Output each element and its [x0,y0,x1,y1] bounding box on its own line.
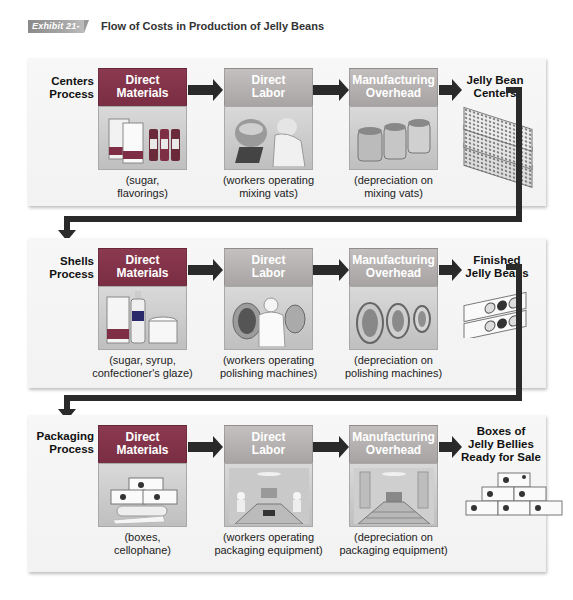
boxes-icon [103,468,183,524]
manufacturing-overhead-box: ManufacturingOverhead (depreciation on p… [349,248,438,380]
manufacturing-overhead-header: ManufacturingOverhead [349,248,438,286]
output-line: Jelly Bean [460,74,530,87]
exhibit-title: Flow of Costs in Production of Jelly Bea… [101,19,324,33]
direct-labor-header: DirectLabor [224,425,313,463]
packaging-process-panel: Packaging Process DirectMaterials (boxes… [28,415,546,572]
direct-labor-header: DirectLabor [224,68,313,106]
connector-line-horizontal [64,395,522,401]
connector-line-horizontal [64,216,522,222]
connector-line-drop [64,395,70,410]
caption-line: mixing vats) [329,187,458,200]
caption-line: mixing vats) [204,187,333,200]
sugar-syrup-glaze-image [98,286,187,350]
cost-caption: (workers operating mixing vats) [204,174,333,200]
output-line: Jelly Beans [460,267,534,280]
manufacturing-overhead-header: ManufacturingOverhead [349,68,438,106]
cost-caption: (workers operating polishing machines) [204,354,333,380]
box-title: Labor [251,87,285,100]
worker-icon [229,111,309,167]
box-title: Overhead [352,87,435,100]
box-title: Materials [116,267,168,280]
polishing-drums-image [349,286,438,350]
flow-arrow [313,442,340,452]
direct-labor-box: DirectLabor (workers operating packaging… [224,425,313,557]
caption-line: packaging equipment) [329,544,458,557]
polishing-worker-icon [229,291,309,347]
box-title: Labor [251,444,285,457]
packaging-workers-icon [229,468,309,524]
caption-line: (workers operating [204,174,333,187]
caption-line: confectioner's glaze) [78,367,207,380]
box-title: Labor [251,267,285,280]
flow-arrow [188,85,214,95]
direct-materials-header: DirectMaterials [98,248,187,286]
shells-process-panel: Shells Process DirectMaterials (sugar, s… [28,238,546,388]
cost-caption: (workers operating packaging equipment) [204,531,333,557]
cost-caption: (boxes, cellophane) [78,531,207,557]
process-label-line: Process [28,443,94,456]
connector-line-top-stub [506,264,522,270]
caption-line: packaging equipment) [204,544,333,557]
flow-arrow [313,265,340,275]
caption-line: (workers operating [204,531,333,544]
workers-packaging-equipment-image [224,463,313,527]
direct-labor-box: DirectLabor (workers operating polishing… [224,248,313,380]
caption-line: (boxes, [78,531,207,544]
connector-line-top-stub [506,87,522,93]
workers-mixing-vats-image [224,106,313,170]
workers-polishing-machines-image [224,286,313,350]
sugar-and-flavorings-image [98,106,187,170]
process-label-line: Shells [28,255,94,268]
caption-line: (depreciation on [329,354,458,367]
direct-materials-box: DirectMaterials (sugar, flavorings) [98,68,187,200]
manufacturing-overhead-box: ManufacturingOverhead (depreciation on p… [349,425,438,557]
process-label: Centers Process [28,75,94,101]
caption-line: cellophane) [78,544,207,557]
direct-labor-box: DirectLabor (workers operating mixing va… [224,68,313,200]
caption-line: flavorings) [78,187,207,200]
cost-caption: (depreciation on polishing machines) [329,354,458,380]
direct-materials-box: DirectMaterials (boxes, cellophane) [98,425,187,557]
process-label: Shells Process [28,255,94,281]
connector-line-drop [64,216,70,231]
direct-materials-header: DirectMaterials [98,68,187,106]
mixing-vats-image [349,106,438,170]
process-label: Packaging Process [28,430,94,456]
output-line: Boxes of [458,425,544,438]
output-label: Finished Jelly Beans [460,254,534,280]
cost-caption: (depreciation on mixing vats) [329,174,458,200]
boxes-cellophane-image [98,463,187,527]
boxes-pyramid-icon [464,471,564,521]
process-label-line: Process [28,88,94,101]
output-label: Boxes of Jelly Bellies Ready for Sale [458,425,544,464]
caption-line: polishing machines) [204,367,333,380]
flow-arrow [439,442,453,452]
flow-arrow [188,442,214,452]
process-label-line: Process [28,268,94,281]
flow-arrow [439,85,453,95]
process-label-line: Packaging [28,430,94,443]
exhibit-tag: Exhibit 21-2 [28,20,84,33]
direct-materials-box: DirectMaterials (sugar, syrup, confectio… [98,248,187,380]
jelly-bean-centers-trays-icon [460,98,540,188]
packaging-conveyor-image [349,463,438,527]
box-title: Materials [116,444,168,457]
conveyor-icon [354,468,434,524]
manufacturing-overhead-box: ManufacturingOverhead (depreciation on m… [349,68,438,200]
cost-caption: (sugar, syrup, confectioner's glaze) [78,354,207,380]
polishing-drum-icon [354,291,434,347]
sugar-bag-icon [103,111,183,167]
flow-arrow [313,85,340,95]
caption-line: (workers operating [204,354,333,367]
connector-line-vertical [516,87,522,222]
exhibit-tag-slant [84,20,89,33]
flow-arrow [439,265,453,275]
box-title: Overhead [352,444,435,457]
cost-caption: (sugar, flavorings) [78,174,207,200]
centers-process-panel: Centers Process DirectMaterials (sugar, … [28,58,546,206]
caption-line: (depreciation on [329,531,458,544]
connector-line-vertical [516,264,522,401]
flow-arrow [188,265,214,275]
caption-line: (depreciation on [329,174,458,187]
mixing-vat-icon [354,111,434,167]
